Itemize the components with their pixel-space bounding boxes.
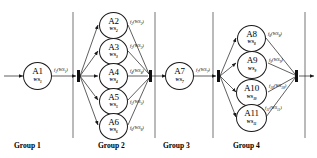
edge-label-f2: f2(WS2) [130,19,144,27]
node-a1-id: A1 [32,67,43,76]
node-a6[interactable]: A6 WS6 [99,113,128,140]
group-label-3: Group 3 [163,142,190,150]
edge-split1-a5 [80,76,98,100]
node-a4-ws: WS4 [109,77,117,85]
node-a8[interactable]: A8 WS8 [237,25,266,52]
node-a9[interactable]: A9 WS9 [237,51,267,79]
group-label-2: Group 2 [98,142,125,150]
node-a5-ws: WS5 [109,102,117,110]
edge-label-f9: f9(WS9) [269,57,283,65]
edge-split2-a10 [220,76,236,92]
node-a2-ws: WS2 [109,26,117,34]
split-bar-group2 [77,70,80,82]
merge-bar-group4 [295,70,298,82]
node-a8-id: A8 [246,30,257,39]
node-a3-id: A3 [108,43,119,52]
node-a2-id: A2 [108,17,119,26]
edge-label-f11: f11(WS11) [265,105,282,113]
node-a4-id: A4 [108,68,119,77]
workflow-diagram: A1 WS1 A2 WS2 A3 WS3 A4 WS4 A5 WS5 A6 WS… [0,0,317,158]
edge-label-f3: f3(WS3) [130,43,144,51]
node-a2[interactable]: A2 WS2 [99,12,128,39]
node-a5-id: A5 [108,93,119,102]
node-a9-ws: WS9 [248,66,256,74]
edge-label-f7: f7(WS7) [196,67,210,75]
node-a7-id: A7 [174,67,185,76]
node-a6-id: A6 [108,118,119,127]
edge-label-f6: f6(WS6) [130,125,144,133]
node-a1[interactable]: A1 WS1 [23,62,52,90]
node-a3-ws: WS3 [109,52,117,60]
edge-split1-a6 [80,76,98,125]
node-a11-id: A11 [244,109,259,118]
edge-split1-a3 [80,51,98,76]
edge-label-f1: f1(WS1) [54,67,68,75]
edge-label-f10: f10(WS10) [269,83,286,91]
group-label-1: Group 1 [14,142,41,150]
edge-split2-a8 [220,38,236,76]
split-bar-group4 [217,70,220,82]
edge-a5-merge1 [128,78,149,100]
group-label-4: Group 4 [233,142,260,150]
node-a10[interactable]: A10 WS10 [236,79,267,107]
node-a7[interactable]: A7 WS7 [165,62,194,90]
node-a3[interactable]: A3 WS3 [99,38,128,65]
node-a11[interactable]: A11 WS11 [236,104,267,132]
node-a9-id: A9 [247,56,258,65]
node-a8-ws: WS8 [247,39,255,47]
node-a11-ws: WS11 [247,119,257,127]
node-a1-ws: WS1 [33,77,41,85]
node-a6-ws: WS6 [109,127,117,135]
edge-split1-a2 [80,25,98,76]
edge-label-f5: f5(WS5) [130,99,144,107]
node-a10-id: A10 [244,84,259,93]
edge-label-f4: f4(WS4) [130,68,144,76]
node-a7-ws: WS7 [175,77,183,85]
node-a10-ws: WS10 [246,94,256,102]
merge-bar-group2 [149,70,152,82]
edge-split2-a11 [220,76,236,117]
edge-label-f8: f8(WS8) [268,31,282,39]
node-a5[interactable]: A5 WS5 [99,88,128,115]
node-a4[interactable]: A4 WS4 [99,63,128,90]
